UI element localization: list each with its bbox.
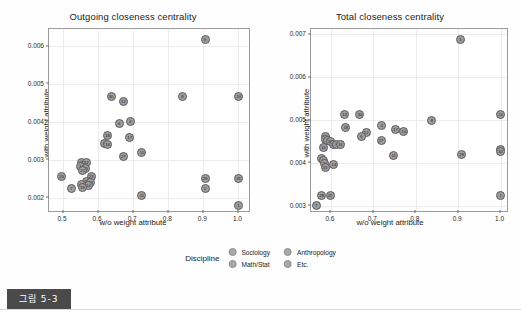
y-axis-tick-label: 0.003: [18, 155, 49, 162]
x-axis-tick-label: 0.7: [368, 210, 377, 222]
scatter-point: 27: [119, 152, 128, 161]
x-axis-tick-label: 0.7: [128, 210, 137, 222]
legend-item[interactable]: Math/Stat: [228, 260, 270, 268]
legend-item-label: Anthropology: [297, 249, 336, 256]
legend-dot-icon: [284, 260, 292, 268]
gridline-vertical: [238, 29, 239, 211]
gridline-horizontal: [311, 206, 507, 207]
bottom-divider: [0, 309, 521, 310]
legend: Discipline SociologyAnthropologyMath/Sta…: [0, 244, 521, 286]
scatter-point: 32: [496, 147, 505, 156]
legend-dot-icon: [228, 260, 236, 268]
scatter-point: 12: [119, 97, 128, 106]
legend-item[interactable]: Sociology: [228, 248, 270, 256]
chart-panel-outgoing: Outgoing closeness centrality with weigh…: [4, 0, 262, 245]
legend-item[interactable]: Anthropology: [284, 248, 336, 256]
gridline-horizontal: [311, 34, 507, 35]
gridline-horizontal: [311, 77, 507, 78]
plot-area-outgoing: 5824301264181791610272832315212023252613…: [48, 28, 250, 212]
gridline-horizontal: [311, 163, 507, 164]
scatter-point: 4: [126, 117, 135, 126]
scatter-point: 29: [457, 150, 466, 159]
scatter-point: 2: [201, 184, 210, 193]
scatter-point: 8: [427, 116, 436, 125]
scatter-point: 18: [341, 123, 350, 132]
x-axis-tick-label: 1.0: [495, 210, 504, 222]
scatter-point: 24: [234, 92, 243, 101]
scatter-point: 7: [67, 184, 76, 193]
legend-dot-icon: [228, 248, 236, 256]
x-axis-tick-label: 0.8: [163, 210, 172, 222]
scatter-point: 24: [496, 110, 505, 119]
scatter-point: 16: [103, 140, 112, 149]
scatter-point: 15: [319, 143, 328, 152]
scatter-point: 10: [137, 148, 146, 157]
scatter-point: 19: [78, 183, 87, 192]
scatter-point: 7: [312, 201, 321, 210]
legend-item[interactable]: Etc.: [284, 260, 336, 268]
x-axis-tick-label: 0.6: [93, 210, 102, 222]
y-axis-tick-label: 0.006: [18, 42, 49, 49]
scatter-point: 11: [389, 151, 398, 160]
gridline-horizontal: [49, 122, 249, 123]
x-axis-tick-label: 0.9: [198, 210, 207, 222]
gridline-horizontal: [49, 84, 249, 85]
gridline-vertical: [63, 29, 64, 211]
legend-title: Discipline: [185, 254, 219, 263]
x-axis-tick-label: 0.6: [325, 210, 334, 222]
figure-container: Outgoing closeness centrality with weigh…: [0, 0, 521, 313]
scatter-point: 33: [321, 163, 330, 172]
y-axis-tick-label: 0.005: [280, 116, 311, 123]
scatter-point: 13: [340, 110, 349, 119]
scatter-point: 5: [201, 35, 210, 44]
legend-item-label: Math/Stat: [241, 261, 269, 268]
y-axis-tick-label: 0.005: [18, 79, 49, 86]
scatter-point: 1: [496, 191, 505, 200]
y-axis-tick-label: 0.003: [280, 201, 311, 208]
gridline-horizontal: [49, 198, 249, 199]
y-axis-tick-label: 0.006: [280, 73, 311, 80]
scatter-point: 10: [399, 127, 408, 136]
y-axis-tick-label: 0.004: [18, 117, 49, 124]
x-axis-tick-label: 0.9: [453, 210, 462, 222]
scatter-point: 5: [456, 35, 465, 44]
scatter-point: 6: [115, 119, 124, 128]
plot-area-total: 5241330818417101262132330271991615112931…: [310, 28, 508, 212]
scatter-point: 29: [201, 174, 210, 183]
gridline-horizontal: [49, 46, 249, 47]
legend-items: SociologyAnthropologyMath/StatEtc.: [228, 248, 335, 268]
x-axis-tick-label: 1.0: [233, 210, 242, 222]
y-axis-tick-label: 0.002: [18, 193, 49, 200]
scatter-point: 31: [234, 174, 243, 183]
legend-item-label: Etc.: [297, 261, 308, 268]
scatter-point: 30: [107, 92, 116, 101]
scatter-point: 14: [329, 160, 338, 169]
scatter-point: 21: [78, 166, 87, 175]
scatter-point: 22: [326, 191, 335, 200]
scatter-point: 4: [377, 121, 386, 130]
scatter-point: 20: [57, 172, 66, 181]
scatter-point: 17: [125, 133, 134, 142]
x-axis-title-total: w/o weight attribute: [262, 218, 518, 227]
gridline-vertical: [168, 29, 169, 211]
scatter-point: 8: [178, 92, 187, 101]
chart-panel-total: Total closeness centrality with weight a…: [262, 0, 518, 245]
scatter-point: 1: [234, 201, 243, 210]
scatter-point: 16: [336, 140, 345, 149]
scatter-point: 28: [317, 191, 326, 200]
scatter-point: 6: [357, 132, 366, 141]
legend-dot-icon: [284, 248, 292, 256]
chart-title-outgoing: Outgoing closeness centrality: [4, 11, 262, 22]
x-axis-tick-label: 0.5: [58, 210, 67, 222]
gridline-vertical: [98, 29, 99, 211]
y-axis-tick-label: 0.007: [280, 30, 311, 37]
scatter-point: 30: [355, 110, 364, 119]
y-axis-tick-label: 0.004: [280, 158, 311, 165]
x-axis-tick-label: 0.8: [410, 210, 419, 222]
legend-item-label: Sociology: [241, 249, 270, 256]
figure-caption: 그림 5-3: [7, 289, 71, 309]
gridline-horizontal: [311, 120, 507, 121]
scatter-point: 27: [377, 136, 386, 145]
chart-title-total: Total closeness centrality: [262, 11, 518, 22]
